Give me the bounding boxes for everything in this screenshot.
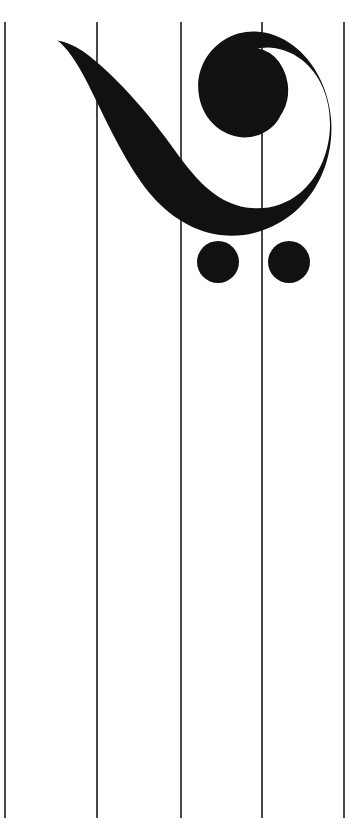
background-rect — [0, 0, 364, 825]
music-notation-figure — [0, 0, 364, 825]
notation-canvas: Bass clef on a five-line staff A bass cl… — [0, 0, 364, 825]
clef-dot-upper — [197, 241, 239, 283]
clef-dot-lower — [268, 241, 310, 283]
